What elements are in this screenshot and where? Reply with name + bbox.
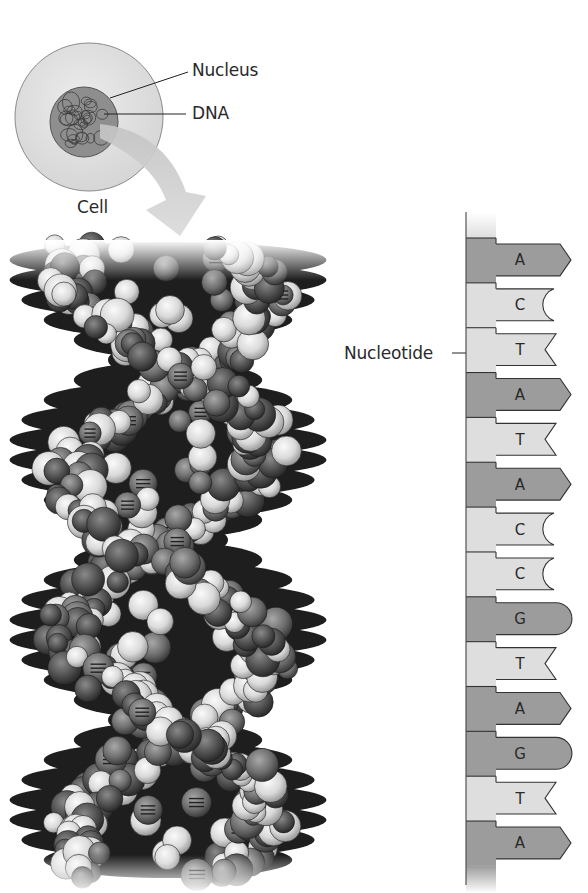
base-letter: A bbox=[515, 476, 526, 494]
nucleotide-1-A: A bbox=[466, 238, 571, 283]
nucleotide-2-C: C bbox=[466, 283, 554, 328]
base-letter: A bbox=[515, 251, 526, 269]
nucleotide-11-A: A bbox=[466, 687, 571, 732]
base-letter: A bbox=[515, 700, 526, 718]
nucleotide-6-A: A bbox=[466, 462, 571, 507]
nucleotide-10-T: T bbox=[466, 642, 556, 687]
base-letter: C bbox=[515, 565, 525, 583]
base-letter: A bbox=[515, 386, 526, 404]
nucleotide-14-A: A bbox=[466, 821, 571, 866]
nucleotide-12-G: G bbox=[466, 731, 572, 776]
base-letter: T bbox=[514, 431, 525, 449]
base-letter: C bbox=[515, 521, 525, 539]
nucleotide-strand-diagram: ACTATACCGTAGTA bbox=[0, 0, 588, 893]
nucleotide-3-T: T bbox=[466, 328, 556, 373]
base-letter: T bbox=[514, 790, 525, 808]
nucleotide-7-C: C bbox=[466, 507, 554, 552]
base-letter: G bbox=[514, 745, 526, 763]
base-letter: A bbox=[515, 834, 526, 852]
nucleotide-8-C: C bbox=[466, 552, 554, 597]
nucleotide-5-T: T bbox=[466, 417, 556, 462]
base-letter: G bbox=[514, 610, 526, 628]
nucleotide-4-A: A bbox=[466, 373, 571, 418]
base-letter: T bbox=[514, 341, 525, 359]
base-letter: C bbox=[515, 296, 525, 314]
nucleotide-13-T: T bbox=[466, 776, 556, 821]
base-letter: T bbox=[514, 655, 525, 673]
nucleotide-9-G: G bbox=[466, 597, 572, 642]
